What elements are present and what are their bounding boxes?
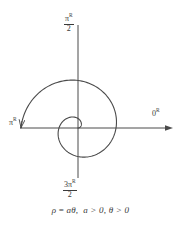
superscript-radian: R	[156, 107, 160, 113]
fraction-denominator: 2	[63, 191, 77, 199]
fraction-pi-over-two: πR 2	[64, 15, 74, 34]
fraction-three-pi-over-two: 3πR 2	[63, 181, 77, 200]
fraction-denominator: 2	[64, 25, 74, 33]
axis-label-pi: πR	[9, 119, 17, 127]
equation-a-theta: aθ	[67, 205, 76, 215]
equation-comma: ,	[76, 205, 78, 215]
polar-spiral-figure: πR 2 3πR 2 0R πR ρ = aθ, a > 0, θ > 0	[0, 0, 181, 226]
axis-label-three-pi-over-two: 3πR 2	[63, 181, 77, 200]
superscript-radian: R	[13, 116, 17, 122]
equation-comma-2: ,	[104, 205, 106, 215]
equation-rho: ρ	[52, 205, 57, 215]
equation-condition-a: a > 0	[83, 205, 104, 215]
archimedean-spiral-curve	[21, 80, 116, 157]
axis-label-pi-over-two: πR 2	[64, 15, 74, 34]
axis-label-zero: 0R	[152, 110, 160, 118]
superscript-radian: R	[72, 178, 76, 184]
equation-caption: ρ = aθ, a > 0, θ > 0	[0, 205, 181, 215]
fraction-numerator: 3πR	[63, 181, 77, 189]
equation-condition-theta: θ > 0	[109, 205, 130, 215]
fraction-numerator: πR	[64, 15, 74, 23]
equation-equals: =	[59, 205, 64, 215]
superscript-radian: R	[69, 12, 73, 18]
